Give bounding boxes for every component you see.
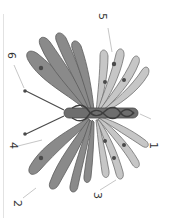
wing-dark-top bbox=[27, 33, 94, 112]
label-2: 2 bbox=[14, 198, 21, 209]
butterfly-illustration bbox=[0, 0, 171, 220]
antennae bbox=[26, 91, 64, 134]
wing-light-bottom bbox=[96, 117, 148, 179]
antenna-tip-bottom bbox=[23, 132, 27, 136]
wing-dark-bottom bbox=[29, 118, 94, 192]
label-1: 1 bbox=[150, 140, 157, 151]
label-5: 5 bbox=[99, 11, 106, 22]
label-3: 3 bbox=[94, 190, 101, 201]
label-6: 6 bbox=[8, 50, 15, 61]
label-4: 4 bbox=[10, 140, 17, 151]
antenna-tip-top bbox=[23, 89, 27, 93]
